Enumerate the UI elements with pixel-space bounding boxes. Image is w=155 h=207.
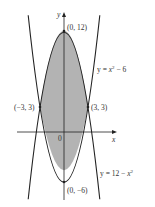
origin-label: 0 xyxy=(58,134,62,143)
y-axis-label: y xyxy=(56,10,61,19)
point-label-3-3: (3, 3) xyxy=(91,103,108,112)
curve-label-x-squared-minus-6: y = x2 − 6 xyxy=(97,65,127,74)
point-0-12 xyxy=(63,30,66,33)
point-3-3 xyxy=(87,106,90,109)
x-axis-label: x xyxy=(111,135,116,144)
point-label-0-neg6: (0, −6) xyxy=(67,186,88,195)
point-label-neg3-3: (−3, 3) xyxy=(14,103,35,112)
x-axis-arrow-icon xyxy=(112,130,117,134)
region-diagram: y x 0 (0, 12) (−3, 3) (3, 3) (0, −6) y =… xyxy=(0,0,155,207)
y-axis-arrow-icon xyxy=(62,12,66,17)
point-label-0-12: (0, 12) xyxy=(67,23,87,32)
point-0-neg6 xyxy=(63,181,66,184)
curve-label-12-minus-x-squared: y = 12 − x2 xyxy=(100,169,134,178)
point-neg3-3 xyxy=(39,106,42,109)
